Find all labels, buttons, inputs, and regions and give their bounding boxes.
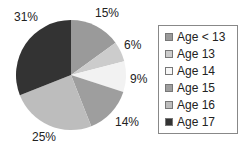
chart-legend: Age < 13 Age 13 Age 14 Age 15 Age 16 Age… bbox=[158, 25, 238, 134]
legend-item-age-14: Age 14 bbox=[165, 63, 215, 79]
legend-item-age-13: Age 13 bbox=[165, 46, 215, 62]
legend-label: Age 14 bbox=[177, 64, 215, 78]
legend-swatch bbox=[165, 67, 173, 75]
legend-item-age-under-13: Age < 13 bbox=[165, 29, 225, 45]
legend-swatch bbox=[165, 118, 173, 126]
legend-swatch bbox=[165, 84, 173, 92]
legend-label: Age 13 bbox=[177, 47, 215, 61]
legend-label: Age 15 bbox=[177, 81, 215, 95]
slice-label-age-under-13: 15% bbox=[95, 6, 119, 20]
legend-item-age-16: Age 16 bbox=[165, 97, 215, 113]
legend-label: Age < 13 bbox=[177, 30, 225, 44]
legend-label: Age 17 bbox=[177, 115, 215, 129]
legend-swatch bbox=[165, 101, 173, 109]
legend-label: Age 16 bbox=[177, 98, 215, 112]
slice-label-age-17: 31% bbox=[14, 10, 38, 24]
slice-label-age-13: 6% bbox=[124, 38, 141, 52]
legend-item-age-15: Age 15 bbox=[165, 80, 215, 96]
legend-swatch bbox=[165, 33, 173, 41]
slice-label-age-15: 14% bbox=[115, 115, 139, 129]
legend-item-age-17: Age 17 bbox=[165, 114, 215, 130]
slice-label-age-14: 9% bbox=[130, 72, 147, 86]
slice-label-age-16: 25% bbox=[32, 130, 56, 144]
legend-swatch bbox=[165, 50, 173, 58]
